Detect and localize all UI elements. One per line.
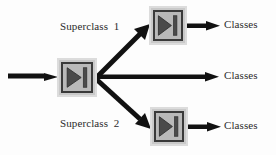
superclass-1-label: Superclass 1 xyxy=(60,20,119,32)
superclass1-classifier-node[interactable] xyxy=(149,6,187,45)
superclass2-to-classes-edge xyxy=(187,119,223,135)
classes-middle-label: Classes xyxy=(224,69,258,81)
input-edge xyxy=(8,68,60,86)
classifier-play-bar-icon xyxy=(63,64,91,91)
superclass1-classifier-frame xyxy=(153,10,183,41)
diagram-canvas: Superclass 1 Superclass 2 Classes Classe… xyxy=(0,0,276,155)
superclass2-classifier-frame xyxy=(154,111,184,142)
classifier-play-bar-icon xyxy=(156,113,182,140)
classifier-play-bar-icon xyxy=(155,12,181,39)
root-classifier-frame xyxy=(61,62,93,93)
classes-top-label: Classes xyxy=(224,18,258,30)
superclass1-to-classes-edge xyxy=(186,18,222,34)
superclass2-classifier-node[interactable] xyxy=(150,107,188,146)
root-classifier-node[interactable] xyxy=(57,58,97,97)
superclass-2-label: Superclass 2 xyxy=(60,117,119,129)
classes-bottom-label: Classes xyxy=(224,119,258,131)
